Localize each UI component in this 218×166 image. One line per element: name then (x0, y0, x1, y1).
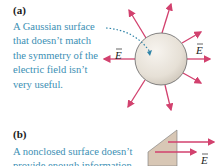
field-label-right: E (195, 44, 203, 56)
diagram-canvas: E E E (0, 0, 218, 166)
field-label-left: E (114, 49, 122, 61)
gaussian-sphere (135, 33, 187, 85)
field-label-b: E (200, 154, 208, 166)
nonclosed-surface (148, 130, 177, 166)
